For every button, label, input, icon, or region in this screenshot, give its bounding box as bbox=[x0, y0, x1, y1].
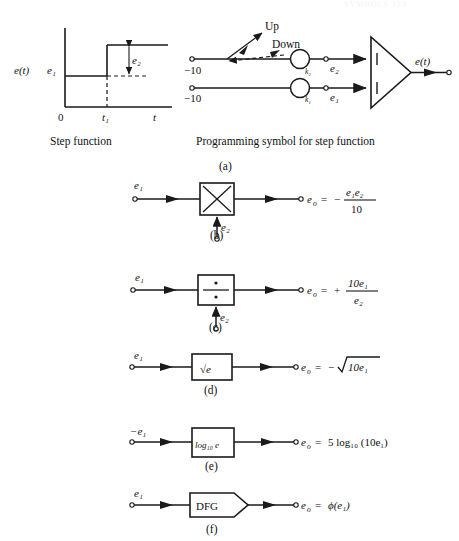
panel-f-letter: (f) bbox=[206, 523, 218, 536]
label-b-input-top: e₁ bbox=[134, 179, 143, 191]
graph-origin-label: 0 bbox=[58, 111, 64, 123]
arrowhead-d-output bbox=[260, 363, 273, 371]
square-root-block bbox=[192, 354, 232, 380]
label-amp-output: e(t) bbox=[415, 55, 431, 68]
panel-a-step-function-graph: e(t) e₁ e₂ 0 t₁ t Step function bbox=[14, 28, 172, 148]
label-d-output-var: e bbox=[301, 361, 306, 373]
terminal-f-input bbox=[130, 503, 134, 507]
label-e-input-top: −e₁ bbox=[130, 425, 146, 437]
terminal-e-output bbox=[294, 440, 298, 444]
graph-step-height-label: e₂ bbox=[132, 54, 141, 66]
terminal-d-input bbox=[130, 365, 134, 369]
arrowhead-amp-output bbox=[424, 69, 437, 77]
panel-a-letter: (a) bbox=[219, 160, 232, 173]
label-b-output-sub: o bbox=[313, 199, 317, 208]
terminal-output bbox=[447, 70, 451, 74]
terminal-c-input bbox=[131, 288, 135, 292]
label-pot-top: k₂ bbox=[305, 67, 311, 76]
panel-e-logarithm: −e₁ log₁₀ e e o = 5 log₁₀ (10e₁) (e) bbox=[130, 425, 388, 473]
label-source-bottom: −10 bbox=[184, 92, 202, 104]
divider-dot-top bbox=[214, 281, 217, 284]
label-d-output-sub: o bbox=[307, 367, 311, 376]
label-b-output-sign: − bbox=[334, 193, 340, 205]
label-pot-bottom: k₁ bbox=[305, 95, 311, 104]
graph-level-label: e₁ bbox=[47, 64, 56, 76]
label-d-output-radicand: 10e₁ bbox=[348, 361, 368, 373]
graph-y-axis-label: e(t) bbox=[14, 64, 30, 77]
label-d-output-eq: = bbox=[315, 361, 321, 373]
label-node-e1: e₁ bbox=[330, 91, 339, 103]
arrowhead-c-output bbox=[265, 286, 278, 294]
arrowhead-f-input bbox=[160, 501, 173, 509]
label-f-output-expr: ϕ(e₁) bbox=[328, 499, 350, 512]
panel-d-square-root: e₁ √e e o = − 10e₁ (d) bbox=[130, 349, 380, 397]
label-e-output-sub: o bbox=[307, 442, 311, 451]
panel-c-divider: e₁ e₂ e o = + 10e₁ e₂ (c) bbox=[131, 271, 378, 334]
label-e-output-eq: = bbox=[315, 436, 321, 448]
arrow-down-switch bbox=[229, 55, 284, 61]
potentiometer-top bbox=[291, 50, 310, 69]
label-e-block: log₁₀ e bbox=[195, 440, 219, 450]
terminal-d-output bbox=[294, 365, 298, 369]
terminal-b-output bbox=[299, 197, 303, 201]
terminal-source-bottom bbox=[190, 86, 194, 90]
label-f-output-eq: = bbox=[315, 499, 321, 511]
panel-c-letter: (c) bbox=[209, 321, 222, 334]
panel-f-diode-function-generator: e₁ DFG e o = ϕ(e₁) (f) bbox=[130, 487, 350, 536]
figure-analog-computer-symbols: e(t) e₁ e₂ 0 t₁ t Step function −10 Up D… bbox=[0, 0, 459, 541]
arrowhead-f-output bbox=[263, 501, 276, 509]
label-b-output-numerator: e₁e₂ bbox=[346, 186, 364, 198]
label-c-output-sign: + bbox=[334, 284, 340, 296]
label-c-input-top: e₁ bbox=[135, 271, 144, 283]
panel-e-letter: (e) bbox=[205, 460, 218, 473]
panel-a-left-caption: Step function bbox=[50, 135, 112, 148]
arrowhead-b-input bbox=[166, 195, 179, 203]
label-c-output-numerator: 10e₁ bbox=[348, 277, 368, 289]
panel-d-letter: (d) bbox=[204, 384, 218, 397]
label-down: Down bbox=[272, 38, 300, 50]
label-c-output-eq: = bbox=[321, 284, 327, 296]
label-b-output-eq: = bbox=[321, 193, 327, 205]
terminal-f-output bbox=[294, 503, 298, 507]
label-up: Up bbox=[265, 20, 279, 33]
label-source-top: −10 bbox=[184, 64, 202, 76]
arrowhead-e-output bbox=[261, 438, 274, 446]
label-f-output-sub: o bbox=[307, 505, 311, 514]
terminal-c-output bbox=[299, 288, 303, 292]
label-c-output-var: e bbox=[307, 284, 312, 296]
panel-b-multiplier: e₁ e₂ e o = − e₁e₂ 10 (b) bbox=[133, 179, 376, 242]
label-b-output-var: e bbox=[307, 193, 312, 205]
graph-t1-tick-label: t₁ bbox=[102, 111, 109, 123]
arrowhead-e-input bbox=[160, 438, 173, 446]
label-b-output-denominator: 10 bbox=[351, 203, 363, 215]
graph-x-axis-label: t bbox=[153, 111, 157, 123]
panel-a-right-caption: Programming symbol for step function bbox=[196, 135, 375, 148]
arrow-up-switch bbox=[227, 33, 262, 59]
terminal-source-top bbox=[190, 57, 194, 61]
arrow-down-midtick bbox=[270, 50, 280, 58]
panel-a-step-function-circuit: −10 Up Down k₂ e₂ −10 k₁ e₁ e(t) bbox=[184, 20, 451, 173]
label-f-input-top: e₁ bbox=[134, 487, 143, 499]
terminal-e-input bbox=[130, 440, 134, 444]
label-node-e2: e₂ bbox=[330, 62, 339, 74]
label-d-input-top: e₁ bbox=[134, 349, 143, 361]
label-e-output-var: e bbox=[301, 436, 306, 448]
operational-amplifier bbox=[371, 37, 411, 108]
label-d-output-sign: − bbox=[328, 361, 334, 373]
arrowhead-d-input bbox=[160, 363, 173, 371]
label-f-output-var: e bbox=[301, 499, 306, 511]
arrowhead-c-input bbox=[164, 286, 177, 294]
terminal-b-input bbox=[133, 197, 137, 201]
label-f-block: DFG bbox=[196, 500, 218, 512]
panel-b-letter: (b) bbox=[210, 229, 224, 242]
divider-dot-bottom bbox=[214, 295, 217, 298]
arrowhead-b-output bbox=[265, 195, 278, 203]
label-c-output-denominator: e₂ bbox=[354, 294, 363, 306]
node-e2 bbox=[324, 57, 328, 61]
node-e1 bbox=[324, 86, 328, 90]
label-d-block: √e bbox=[200, 363, 211, 375]
label-e-output-expr: 5 log₁₀ (10e₁) bbox=[328, 436, 388, 449]
label-c-output-sub: o bbox=[313, 290, 317, 299]
